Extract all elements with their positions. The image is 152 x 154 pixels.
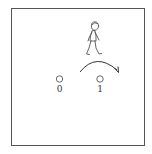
position-1-marker	[97, 76, 103, 82]
position-1-label: 1	[94, 84, 106, 94]
walking-person-icon	[87, 22, 102, 55]
position-0-label: 0	[54, 84, 66, 94]
curved-arrow-icon	[80, 61, 119, 72]
position-0-marker	[56, 76, 62, 82]
diagram-canvas	[0, 0, 152, 154]
